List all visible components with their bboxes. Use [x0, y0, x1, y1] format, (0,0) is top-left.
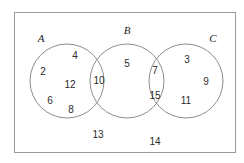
venn-diagram-figure: ABC42126810571539111314 [0, 0, 244, 163]
venn-element-11: 11 [181, 96, 191, 106]
venn-element-14: 14 [149, 137, 160, 147]
venn-element-3: 3 [184, 55, 190, 65]
set-label-b: B [124, 25, 131, 36]
venn-element-13: 13 [92, 130, 103, 140]
set-label-a: A [38, 33, 45, 44]
venn-element-9: 9 [203, 77, 209, 87]
venn-element-6: 6 [47, 96, 53, 106]
venn-element-5: 5 [124, 59, 130, 69]
venn-element-10: 10 [93, 76, 104, 86]
venn-element-12: 12 [64, 80, 75, 90]
venn-element-7: 7 [152, 66, 158, 76]
venn-element-8: 8 [68, 105, 74, 115]
venn-element-4: 4 [72, 51, 78, 61]
venn-element-2: 2 [40, 67, 46, 77]
venn-element-15: 15 [149, 91, 160, 101]
set-label-c: C [209, 33, 216, 44]
